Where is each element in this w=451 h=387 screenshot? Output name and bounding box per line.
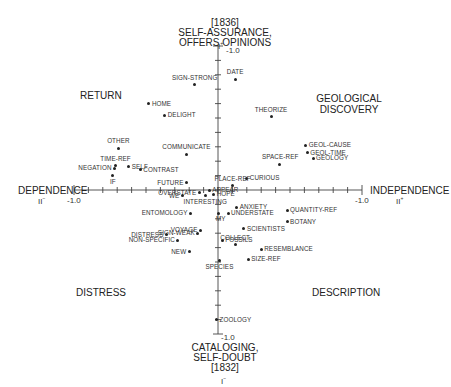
data-point-label: DATE (227, 68, 244, 75)
data-point (260, 248, 263, 251)
data-point (212, 193, 215, 196)
data-point-label: COMMUNICATE (162, 143, 210, 150)
data-point-label: QUANTITY-REF (290, 206, 337, 213)
data-point-label: NEGATION (78, 164, 111, 171)
bottom-symbol: I− (221, 375, 226, 386)
data-point-label: COLLECT (220, 234, 250, 241)
data-point-label: GEOLOGY (316, 154, 348, 161)
right-tick-label: -1.0 (355, 196, 369, 205)
left-tick-label: -1.0 (67, 196, 81, 205)
data-point-label: INTERESTING (184, 198, 227, 205)
data-point (227, 212, 230, 215)
data-point (163, 114, 166, 117)
top-pole-label: [1836] SELF-ASSURANCE, OFFERS OPINIONS (140, 18, 310, 48)
data-point-label: SIGN-STRONG (172, 74, 218, 81)
data-point-label: SPECIES (205, 263, 233, 270)
data-point-label: BOTANY (290, 218, 316, 225)
data-point (189, 212, 192, 215)
quadrant-description: DESCRIPTION (312, 287, 380, 298)
left-label: DEPENDENCE (18, 186, 88, 196)
data-point (270, 115, 273, 118)
data-point-label: FUTURE (157, 179, 183, 186)
data-point (113, 167, 116, 170)
left-symbol: II− (38, 195, 45, 206)
top-tick-label: -1.0 (226, 46, 240, 55)
bottom-pole-label: CATALOGING, SELF-DOUBT [1832] (140, 343, 310, 373)
data-point-label: GEOL-CAUSE (309, 141, 351, 148)
right-label: INDEPENDENCE (370, 186, 450, 196)
data-point-label: NON-SPECIFIC (129, 236, 175, 243)
top-label: SELF-ASSURANCE, OFFERS OPINIONS (170, 28, 280, 48)
data-point (247, 258, 250, 261)
data-point-label: PLACE-REF (214, 175, 250, 182)
data-point-label: TIME-REF (100, 155, 131, 162)
scatter-plot: [1836] SELF-ASSURANCE, OFFERS OPINIONS I… (0, 0, 451, 387)
data-point-label: MY (216, 215, 226, 222)
data-point (306, 151, 309, 154)
data-point-label: IF (110, 178, 116, 185)
data-point-label: RESEMBLANCE (264, 245, 313, 252)
data-point-label: CONTRAST (143, 166, 178, 173)
data-point (185, 153, 188, 156)
bottom-year: [1832] (140, 363, 310, 373)
bottom-tick-label: --1.01.0 (221, 333, 235, 342)
right-symbol: II+ (396, 195, 403, 206)
data-point-label: ENTOMOLOGY (142, 209, 188, 216)
data-point-label: UNDERSTATE (231, 209, 274, 216)
data-point-label: SCIENTISTS (247, 225, 285, 232)
data-point (117, 147, 120, 150)
quadrant-distress: DISTRESS (76, 287, 126, 298)
right-pole-label: INDEPENDENCE (370, 186, 450, 196)
data-point-label: CURIOUS (250, 174, 280, 181)
data-point-label: OTHER (107, 137, 130, 144)
data-point-label: THEORIZE (255, 106, 288, 113)
left-pole-label: DEPENDENCE (18, 186, 88, 196)
data-point (286, 220, 289, 223)
data-point-label: HOPE (217, 190, 235, 197)
data-point-label: DELIGHT (168, 111, 196, 118)
data-point-label: ZOOLOGY (220, 316, 252, 323)
bottom-label: CATALOGING, SELF-DOUBT (180, 343, 270, 363)
data-point-label: SIZE-REF (251, 255, 281, 262)
top-symbol: I+ (218, 40, 223, 51)
data-point-label: WE (169, 192, 179, 199)
data-point (312, 157, 315, 160)
data-point-label: HOME (152, 100, 171, 107)
data-point-label: SPACE-REF (262, 153, 298, 160)
data-point-label: NEW (171, 248, 186, 255)
quadrant-geological-discovery: GEOLOGICAL DISCOVERY (314, 93, 384, 115)
quadrant-return: RETURN (80, 90, 122, 101)
data-point (286, 209, 289, 212)
data-point (208, 189, 211, 192)
data-point (234, 78, 237, 81)
